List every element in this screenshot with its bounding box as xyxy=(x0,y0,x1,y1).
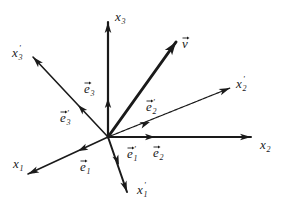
svg-text:1: 1 xyxy=(144,190,148,199)
x2p-unit-vector-arrowhead-icon xyxy=(140,122,150,128)
label-x2: x2 xyxy=(259,137,271,154)
label-x1: x1 xyxy=(12,156,24,173)
axis-x3p xyxy=(33,57,108,137)
label-e1: e1 xyxy=(80,159,91,176)
svg-text:': ' xyxy=(243,75,245,84)
svg-text:x: x xyxy=(11,45,18,60)
coordinate-diagram: x3vx3'x2'x2x1x1'e3e3'e2'e2e1'e1 xyxy=(0,0,287,204)
label-e3: e3 xyxy=(84,81,95,98)
label-v: v xyxy=(182,36,190,51)
svg-text:': ' xyxy=(153,98,155,107)
label-x3: x3 xyxy=(114,9,126,26)
label-x3p: x3' xyxy=(11,44,23,62)
svg-text:3: 3 xyxy=(66,118,71,127)
label-x2p: x2' xyxy=(235,75,247,93)
svg-text:': ' xyxy=(134,145,136,154)
svg-text:x: x xyxy=(12,156,19,171)
svg-text:1: 1 xyxy=(134,154,138,163)
svg-text:2: 2 xyxy=(153,107,157,116)
svg-text:x: x xyxy=(259,137,266,152)
vector-arrow-icon xyxy=(187,36,190,39)
label-e1p: e1' xyxy=(127,145,138,163)
svg-text:2: 2 xyxy=(267,145,271,154)
label-e2p: e2' xyxy=(146,98,157,116)
vector-arrow-icon xyxy=(89,81,92,84)
svg-text:3: 3 xyxy=(90,89,95,98)
axis-x1p xyxy=(108,137,127,192)
svg-text:x: x xyxy=(235,76,242,91)
axis-x2 xyxy=(108,134,251,141)
label-e3p: e3' xyxy=(60,109,71,127)
svg-text:3: 3 xyxy=(18,53,23,62)
label-e2: e2 xyxy=(153,145,164,162)
svg-text:1: 1 xyxy=(20,164,24,173)
x1p-unit-vector-arrowhead-icon xyxy=(112,155,119,165)
svg-text:': ' xyxy=(67,109,69,118)
axis-x3 xyxy=(105,22,112,137)
label-x1p: x1' xyxy=(136,181,148,199)
svg-text:x: x xyxy=(114,9,121,24)
svg-text:': ' xyxy=(144,181,146,190)
svg-text:2: 2 xyxy=(160,153,164,162)
vector-arrow-icon xyxy=(85,159,88,162)
svg-text:x: x xyxy=(136,182,143,197)
svg-text:': ' xyxy=(19,44,21,53)
axis-x1 xyxy=(28,137,108,174)
svg-text:1: 1 xyxy=(87,167,91,176)
vector-arrow-icon xyxy=(158,145,161,148)
svg-text:2: 2 xyxy=(243,84,247,93)
svg-text:3: 3 xyxy=(121,17,126,26)
